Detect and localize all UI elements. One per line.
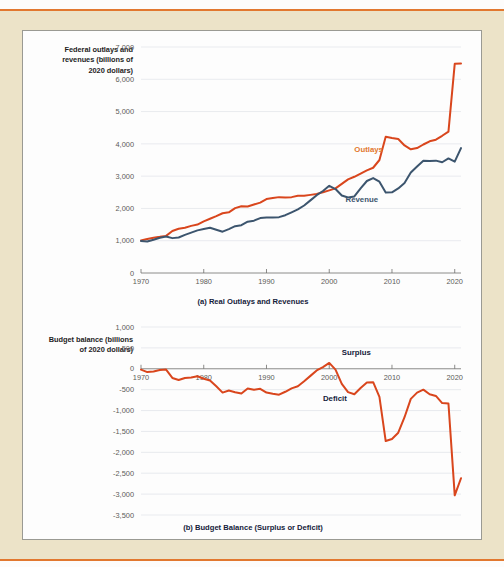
panel-b-xtick-label: 1970 — [133, 373, 149, 382]
panel-a-caption: (a) Real Outlays and Revenues — [23, 297, 483, 306]
panel-a-ytick-label: 1,000 — [116, 236, 135, 245]
page-top-margin — [0, 0, 504, 9]
panel-b-annotation-deficit: Deficit — [323, 394, 347, 403]
panel-a-ytick-label: 3,000 — [116, 172, 135, 181]
page-root: Federal outlays and revenues (billions o… — [0, 0, 504, 567]
panel-a-plot-area: 01,0002,0003,0004,0005,0006,0007,0001970… — [23, 33, 483, 313]
panel-b-ytick-label: -1,000 — [113, 406, 134, 415]
panel-b-ytick-label: -3,500 — [113, 511, 134, 520]
page-bottom-margin — [0, 561, 504, 567]
panel-b-plot-area: 1,0005000-500-1,000-1,500-2,000-2,500-3,… — [23, 313, 483, 539]
panel-a-xtick-label: 1970 — [133, 277, 149, 286]
panel-b-ytick-label: -500 — [119, 385, 134, 394]
panel-b-annotation-surplus: Surplus — [342, 348, 372, 357]
panel-b-ytick-label: 1,000 — [116, 323, 135, 332]
chart-panel-b: Budget balance (billions of 2020 dollars… — [23, 313, 483, 539]
panel-a-ytick-label: 2,000 — [116, 204, 135, 213]
panel-b-ytick-label: -2,500 — [113, 469, 134, 478]
panel-a-svg: 01,0002,0003,0004,0005,0006,0007,0001970… — [23, 33, 483, 313]
panel-b-ytick-label: -1,500 — [113, 427, 134, 436]
figure-card: Federal outlays and revenues (billions o… — [22, 30, 482, 540]
panel-a-xtick-label: 1990 — [258, 277, 274, 286]
panel-b-xtick-label: 1990 — [258, 373, 274, 382]
panel-a-ytick-label: 5,000 — [116, 107, 135, 116]
panel-b-xtick-label: 2000 — [321, 373, 337, 382]
panel-b-xtick-label: 2020 — [446, 373, 462, 382]
chart-panel-a: Federal outlays and revenues (billions o… — [23, 33, 483, 313]
panel-a-label-outlays: Outlays — [354, 145, 383, 154]
panel-b-ytick-label: -3,000 — [113, 490, 134, 499]
panel-a-xtick-label: 2010 — [384, 277, 400, 286]
panel-a-ytick-label: 4,000 — [116, 140, 135, 149]
panel-b-ytick-label: 500 — [122, 344, 134, 353]
panel-a-series-outlays — [141, 63, 461, 240]
panel-b-xtick-label: 2010 — [384, 373, 400, 382]
panel-b-series-budget-balance — [141, 363, 461, 495]
panel-a-label-revenue: Revenue — [346, 195, 379, 204]
panel-b-ytick-label: -2,000 — [113, 448, 134, 457]
panel-a-xtick-label: 2000 — [321, 277, 337, 286]
panel-a-ytick-label: 7,000 — [116, 43, 135, 52]
panel-b-caption: (b) Budget Balance (Surplus or Deficit) — [23, 523, 483, 532]
panel-a-xtick-label: 1980 — [196, 277, 212, 286]
panel-a-ytick-label: 6,000 — [116, 75, 135, 84]
panel-b-svg: 1,0005000-500-1,000-1,500-2,000-2,500-3,… — [23, 313, 483, 539]
panel-a-xtick-label: 2020 — [446, 277, 462, 286]
